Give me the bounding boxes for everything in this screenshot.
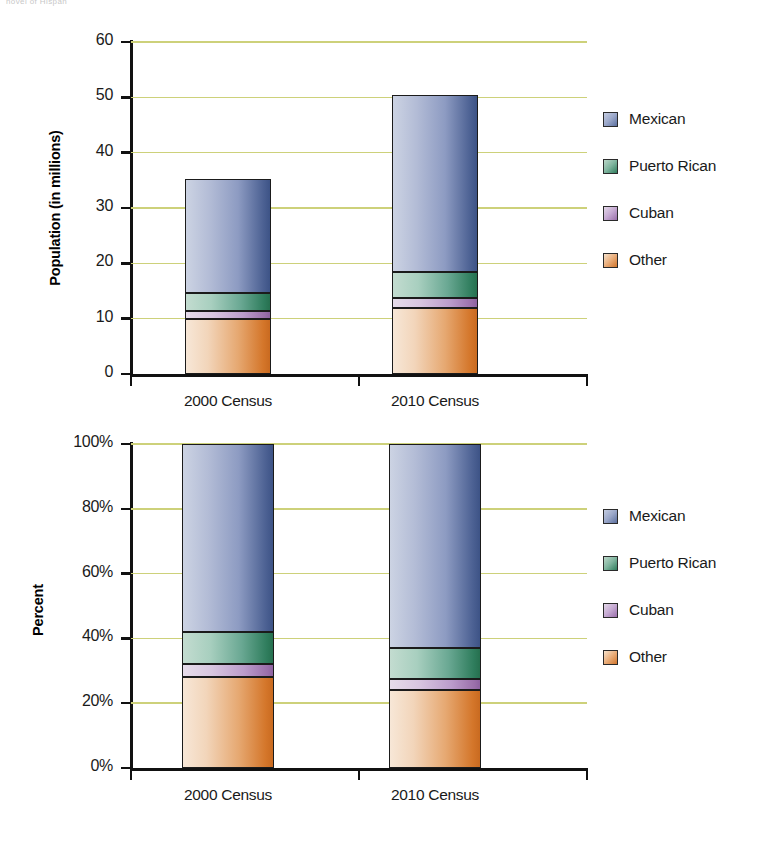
y-axis-tick-label: 60 <box>13 31 113 49</box>
y-axis-tick <box>121 207 130 210</box>
stacked-bar[interactable] <box>392 42 478 374</box>
legend-item-label: Puerto Rican <box>629 157 716 175</box>
legend-item-label: Puerto Rican <box>629 554 716 572</box>
legend-item-label: Cuban <box>629 204 674 222</box>
x-axis-tick <box>130 376 133 386</box>
legend-item-other[interactable]: Other <box>603 648 667 666</box>
y-axis-tick <box>121 767 130 770</box>
y-axis-tick <box>121 443 130 446</box>
y-axis-tick <box>121 41 130 44</box>
legend-swatch-icon <box>603 112 618 127</box>
legend-swatch-icon <box>603 159 618 174</box>
x-axis-tick <box>586 770 589 780</box>
x-axis-category-label: 2010 Census <box>355 392 515 410</box>
bar-segment-cuban[interactable] <box>389 679 481 690</box>
y-axis-tick <box>121 572 130 575</box>
y-axis-tick <box>121 637 130 640</box>
bar-segment-puertorican[interactable] <box>182 632 274 664</box>
stacked-bar[interactable] <box>185 42 271 374</box>
bar-segment-puertorican[interactable] <box>389 648 481 679</box>
bar-segment-other[interactable] <box>389 690 481 768</box>
legend-item-label: Mexican <box>629 507 685 525</box>
bar-segment-other[interactable] <box>185 319 271 374</box>
bar-segment-mexican[interactable] <box>392 95 478 273</box>
stacked-bar[interactable] <box>182 444 274 768</box>
legend-swatch-icon <box>603 556 618 571</box>
y-axis-tick-label: 50 <box>13 86 113 104</box>
y-axis-tick-label: 30 <box>13 197 113 215</box>
y-axis-tick <box>121 151 130 154</box>
x-axis-tick <box>586 376 589 386</box>
y-axis-tick <box>121 508 130 511</box>
population-legend: MexicanPuerto RicanCubanOther <box>603 110 763 270</box>
percent-legend: MexicanPuerto RicanCubanOther <box>603 507 763 667</box>
bar-segment-cuban[interactable] <box>182 664 274 677</box>
legend-item-label: Mexican <box>629 110 685 128</box>
bar-segment-puertorican[interactable] <box>185 293 271 312</box>
bar-segment-other[interactable] <box>392 308 478 374</box>
bar-segment-mexican[interactable] <box>182 444 274 632</box>
chart-page: hovel of Hispan Population (in millions)… <box>0 0 765 841</box>
y-axis-tick-label: 20% <box>13 692 113 710</box>
legend-item-puertorican[interactable]: Puerto Rican <box>603 554 716 572</box>
y-axis-tick <box>121 373 130 376</box>
legend-item-puertorican[interactable]: Puerto Rican <box>603 157 716 175</box>
bar-segment-mexican[interactable] <box>389 444 481 648</box>
bar-segment-mexican[interactable] <box>185 179 271 293</box>
bar-segment-cuban[interactable] <box>185 311 271 318</box>
y-axis-tick-label: 80% <box>13 498 113 516</box>
legend-item-label: Other <box>629 251 667 269</box>
y-axis-tick <box>121 262 130 265</box>
legend-item-cuban[interactable]: Cuban <box>603 204 674 222</box>
legend-swatch-icon <box>603 206 618 221</box>
legend-item-mexican[interactable]: Mexican <box>603 110 685 128</box>
legend-item-mexican[interactable]: Mexican <box>603 507 685 525</box>
y-axis-tick <box>121 96 130 99</box>
y-axis-tick-label: 0% <box>13 757 113 775</box>
x-axis-category-label: 2000 Census <box>148 786 308 804</box>
x-axis-tick <box>358 770 361 780</box>
legend-swatch-icon <box>603 603 618 618</box>
legend-item-label: Cuban <box>629 601 674 619</box>
legend-swatch-icon <box>603 253 618 268</box>
x-axis-category-label: 2010 Census <box>355 786 515 804</box>
x-axis-tick <box>130 770 133 780</box>
legend-item-cuban[interactable]: Cuban <box>603 601 674 619</box>
percent-y-axis-title: Percent <box>30 510 46 710</box>
x-axis-category-label: 2000 Census <box>148 392 308 410</box>
bar-segment-puertorican[interactable] <box>392 272 478 297</box>
bar-segment-cuban[interactable] <box>392 298 478 308</box>
legend-item-label: Other <box>629 648 667 666</box>
y-axis-line <box>130 442 133 770</box>
stacked-bar[interactable] <box>389 444 481 768</box>
y-axis-tick-label: 10 <box>13 308 113 326</box>
population-plot-area: 01020304050602000 Census2010 Census <box>131 42 587 374</box>
population-chart: Population (in millions) 010203040506020… <box>0 0 765 412</box>
y-axis-tick-label: 0 <box>13 363 113 381</box>
y-axis-tick-label: 60% <box>13 563 113 581</box>
y-axis-tick <box>121 317 130 320</box>
y-axis-tick-label: 40% <box>13 627 113 645</box>
percent-chart: Percent 0%20%40%60%80%100%2000 Census201… <box>0 412 765 841</box>
y-axis-tick <box>121 702 130 705</box>
legend-item-other[interactable]: Other <box>603 251 667 269</box>
legend-swatch-icon <box>603 509 618 524</box>
y-axis-tick-label: 20 <box>13 252 113 270</box>
x-axis-tick <box>358 376 361 386</box>
bar-segment-other[interactable] <box>182 677 274 768</box>
y-axis-tick-label: 100% <box>13 433 113 451</box>
legend-swatch-icon <box>603 650 618 665</box>
y-axis-tick-label: 40 <box>13 142 113 160</box>
percent-plot-area: 0%20%40%60%80%100%2000 Census2010 Census <box>131 444 587 768</box>
